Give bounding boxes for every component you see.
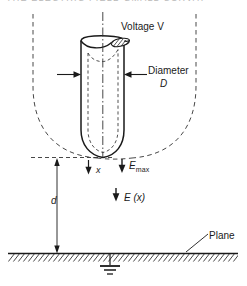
plane-label: Plane: [209, 231, 235, 241]
plane-leader-line: [186, 234, 208, 252]
rod-electrode: [81, 36, 135, 158]
diameter-symbol-label: D: [160, 79, 167, 89]
emax-subscript: max: [136, 166, 150, 173]
diameter-label: Diameter: [148, 66, 189, 76]
emax-symbol: E: [129, 160, 136, 171]
x-arrow: [85, 160, 91, 175]
emax-arrow: [119, 159, 126, 173]
gap-distance-label: d: [51, 196, 57, 206]
figure-canvas: THE ELECTRIC FIELD SMALL CURVAT: [0, 0, 247, 286]
e-of-x-arrow: [113, 188, 120, 202]
rod-plane-gap-diagram: [0, 0, 247, 286]
x-label: x: [96, 166, 101, 175]
ground-plane: [8, 253, 240, 262]
e-of-x-label: E (x): [124, 193, 145, 203]
voltage-label: Voltage V: [121, 22, 164, 32]
diameter-arrow-left: [57, 71, 81, 77]
emax-label: Emax: [129, 161, 150, 173]
diameter-arrow-right: [124, 71, 147, 77]
